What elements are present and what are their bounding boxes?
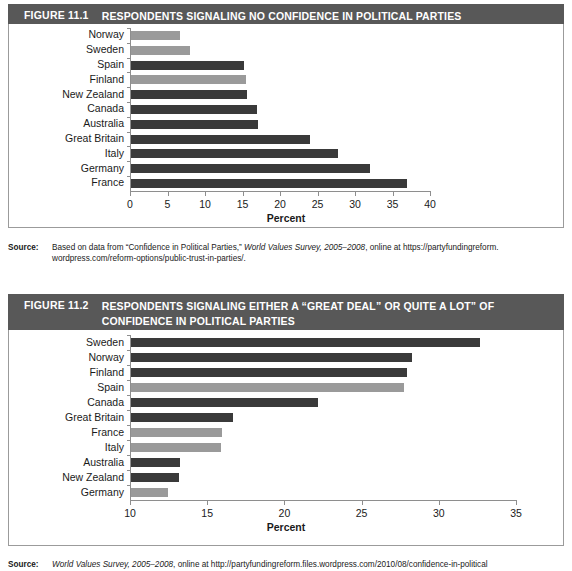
source-text-2: World Values Survey, 2005–2008, online a… xyxy=(52,560,566,571)
x-axis-tick xyxy=(168,192,169,196)
y-axis-tick xyxy=(127,176,131,177)
x-axis-title: Percent xyxy=(9,212,563,224)
bar xyxy=(131,135,310,144)
bar xyxy=(131,473,179,482)
figure-11-2-plate: SwedenNorwayFinlandSpainCanadaGreat Brit… xyxy=(8,330,564,546)
y-axis-tick xyxy=(127,440,131,441)
y-axis-tick xyxy=(127,455,131,456)
bar xyxy=(131,338,480,347)
y-axis-tick xyxy=(127,161,131,162)
y-axis-tick xyxy=(127,146,131,147)
x-axis-line xyxy=(130,500,517,501)
x-axis-tick-label: 20 xyxy=(274,198,286,210)
x-axis-tick-label: 20 xyxy=(279,507,291,519)
y-axis-tick xyxy=(127,365,131,366)
x-axis-tick xyxy=(207,501,208,505)
category-label: Italy xyxy=(105,442,124,453)
bar xyxy=(131,488,168,497)
y-axis-tick xyxy=(127,410,131,411)
x-axis-tick xyxy=(362,501,363,505)
category-label: Canada xyxy=(87,397,124,408)
y-axis-tick xyxy=(127,335,131,336)
figure-11-1-source: Source: Based on data from “Confidence i… xyxy=(8,243,566,264)
figure-11-2: FIGURE 11.2 RESPONDENTS SIGNALING EITHER… xyxy=(8,294,564,546)
bar xyxy=(131,368,407,377)
figure-11-2-title: RESPONDENTS SIGNALING EITHER A “GREAT DE… xyxy=(89,299,564,328)
y-axis-tick xyxy=(127,43,131,44)
bar xyxy=(131,179,407,188)
x-axis-title: Percent xyxy=(9,521,563,533)
category-label: Sweden xyxy=(86,44,124,55)
x-axis-tick-label: 35 xyxy=(387,198,399,210)
bar xyxy=(131,46,190,55)
bar xyxy=(131,443,221,452)
figure-11-2-source: Source: World Values Survey, 2005–2008, … xyxy=(8,560,566,571)
bar xyxy=(131,61,244,70)
y-axis-tick xyxy=(127,72,131,73)
category-label: Finland xyxy=(90,74,124,85)
x-axis-tick xyxy=(393,192,394,196)
x-axis-tick-label: 5 xyxy=(165,198,171,210)
category-label: Great Britain xyxy=(65,412,124,423)
x-axis-tick-label: 10 xyxy=(199,198,211,210)
category-label: Germany xyxy=(81,487,124,498)
y-axis-tick xyxy=(127,28,131,29)
x-axis-tick-label: 35 xyxy=(510,507,522,519)
source-part-2b: , online at http://partyfundingreform.fi… xyxy=(173,560,487,569)
bar xyxy=(131,413,233,422)
category-label: France xyxy=(91,177,124,188)
x-axis-tick xyxy=(280,192,281,196)
category-label: Australia xyxy=(83,118,124,129)
bar xyxy=(131,120,258,129)
y-axis-tick xyxy=(127,58,131,59)
y-axis-tick xyxy=(127,425,131,426)
category-label: Norway xyxy=(88,29,124,40)
x-axis-tick-label: 0 xyxy=(127,198,133,210)
x-axis-tick xyxy=(318,192,319,196)
bar xyxy=(131,31,180,40)
y-axis-tick xyxy=(127,350,131,351)
bar xyxy=(131,458,180,467)
y-axis-tick xyxy=(127,102,131,103)
chart-no-confidence: NorwaySwedenSpainFinlandNew ZealandCanad… xyxy=(9,24,563,227)
y-axis-tick xyxy=(127,380,131,381)
category-label: Norway xyxy=(88,352,124,363)
source-part-1a: Based on data from “Confidence in Politi… xyxy=(52,243,244,252)
y-axis-tick xyxy=(127,117,131,118)
category-label: Finland xyxy=(90,367,124,378)
y-axis-tick xyxy=(127,485,131,486)
category-label: Spain xyxy=(97,382,124,393)
x-axis-tick-label: 25 xyxy=(356,507,368,519)
x-axis-tick xyxy=(430,192,431,196)
figure-11-2-number: FIGURE 11.2 xyxy=(8,299,89,311)
source-label-1: Source: xyxy=(8,243,52,264)
source-part-1b: , online at https://partyfundingreform. xyxy=(365,243,498,252)
x-axis-tick xyxy=(130,501,131,505)
bar xyxy=(131,90,247,99)
x-axis-tick xyxy=(355,192,356,196)
x-axis-tick-label: 10 xyxy=(124,507,136,519)
source-text-1: Based on data from “Confidence in Politi… xyxy=(52,243,566,264)
source-label-2: Source: xyxy=(8,560,52,571)
bar xyxy=(131,75,246,84)
x-axis-tick xyxy=(284,501,285,505)
category-label: Spain xyxy=(97,59,124,70)
category-label: France xyxy=(91,427,124,438)
source-italic-1: World Values Survey, 2005–2008 xyxy=(244,243,365,252)
x-axis-tick-label: 30 xyxy=(433,507,445,519)
bar xyxy=(131,164,370,173)
x-axis-tick-label: 30 xyxy=(349,198,361,210)
source-italic-2: World Values Survey, 2005–2008 xyxy=(52,560,173,569)
x-axis-tick-label: 40 xyxy=(424,198,436,210)
x-axis-tick-label: 15 xyxy=(201,507,213,519)
y-axis-tick xyxy=(127,395,131,396)
y-axis-tick xyxy=(127,132,131,133)
bar xyxy=(131,398,318,407)
source-part-1c: wordpress.com/reform-options/public-trus… xyxy=(52,254,246,263)
x-axis-tick xyxy=(130,192,131,196)
category-label: New Zealand xyxy=(62,89,124,100)
category-label: New Zealand xyxy=(62,472,124,483)
figure-11-1-header: FIGURE 11.1 RESPONDENTS SIGNALING NO CON… xyxy=(8,4,564,24)
category-label: Germany xyxy=(81,163,124,174)
figure-11-1-number: FIGURE 11.1 xyxy=(8,9,89,21)
